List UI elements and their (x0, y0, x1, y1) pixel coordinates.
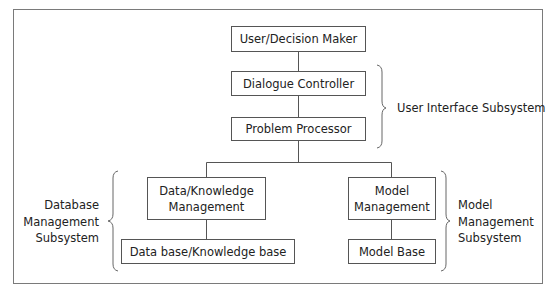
node-data-knowledge-management: Data/Knowledge Management (147, 177, 266, 220)
node-label: User/Decision Maker (240, 31, 358, 47)
node-label-line1: Data/Knowledge (159, 183, 254, 199)
dbms-brace-icon (108, 171, 118, 271)
node-label-line2: Management (169, 199, 245, 215)
node-problem-processor: Problem Processor (231, 117, 366, 141)
node-database-knowledge-base: Data base/Knowledge base (121, 239, 295, 264)
node-model-management: Model Management (348, 177, 436, 220)
node-label-line2: Management (354, 199, 430, 215)
node-dialogue-controller: Dialogue Controller (231, 71, 366, 96)
node-label: Problem Processor (245, 121, 351, 137)
node-label: Dialogue Controller (243, 76, 354, 92)
node-model-base: Model Base (348, 239, 436, 264)
group-label-user-interface-subsystem: User Interface Subsystem (397, 100, 545, 117)
node-label-line1: Model (375, 183, 410, 199)
mms-brace-icon (441, 171, 450, 271)
group-label-database-management-subsystem: Database Management Subsystem (10, 197, 99, 247)
node-label: Data base/Knowledge base (130, 244, 287, 260)
node-label: Model Base (359, 244, 425, 260)
group-label-model-management-subsystem: Model Management Subsystem (458, 197, 534, 247)
ui-brace-icon (377, 65, 386, 148)
node-user-decision-maker: User/Decision Maker (231, 26, 366, 52)
